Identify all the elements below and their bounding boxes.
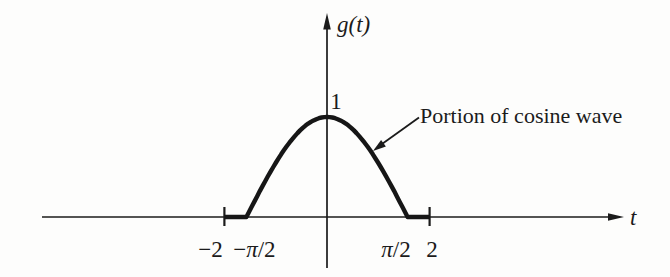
x-tick-label: −2 [198, 237, 222, 262]
t-axis-label: t [630, 205, 637, 230]
amplitude-label: 1 [330, 89, 342, 114]
x-tick-label: −π/2 [233, 237, 275, 262]
annotation-leader-line [382, 118, 419, 145]
x-tick-label: π/2 [381, 237, 410, 262]
x-tick-label: 2 [426, 237, 438, 262]
annotation-text: Portion of cosine wave [420, 103, 622, 128]
g-axis-label: g(t) [337, 12, 370, 37]
cosine-pulse-figure: g(t) t 1 Portion of cosine wave −2−π/2π/… [0, 0, 670, 277]
g-axis-arrowhead [323, 13, 331, 30]
t-axis-arrowhead [608, 213, 624, 221]
figure-canvas: g(t) t 1 Portion of cosine wave −2−π/2π/… [0, 0, 670, 277]
x-tick-labels: −2−π/2π/22 [198, 237, 438, 262]
